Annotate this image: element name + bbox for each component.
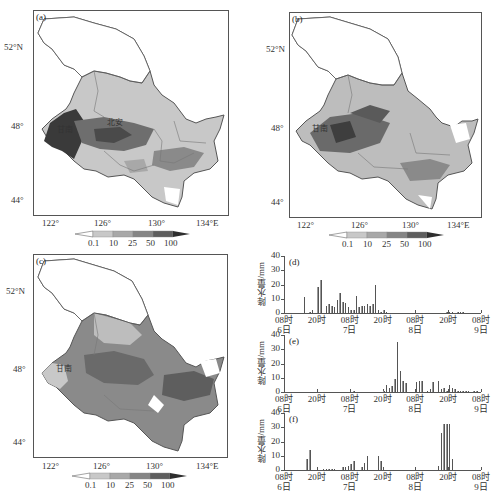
y-tick — [281, 470, 284, 471]
x-tick — [350, 389, 351, 392]
x-tick — [284, 310, 285, 313]
data-bar — [462, 391, 464, 392]
lat-tick: 52°N — [4, 42, 23, 52]
colorbar-label: 10 — [106, 480, 115, 490]
x-tick — [317, 389, 318, 392]
x-tick-date: 9日 — [469, 482, 493, 492]
panel-label: (f) — [289, 414, 298, 424]
panel-label: (c) — [36, 256, 46, 266]
x-tick-label: 08时 — [272, 394, 296, 404]
x-tick-label: 08时 — [469, 394, 493, 404]
data-bar — [452, 459, 454, 470]
place-label-beian: 北安 — [107, 116, 123, 127]
x-tick — [284, 467, 285, 470]
x-tick-label: 08时 — [272, 315, 296, 325]
data-bar — [391, 386, 393, 392]
panel-label: (a) — [36, 12, 46, 22]
data-bar — [304, 297, 306, 313]
data-bar — [402, 381, 404, 392]
x-tick — [383, 467, 384, 470]
data-bar — [432, 382, 434, 392]
data-bar — [421, 381, 423, 392]
x-tick-date: 6日 — [272, 482, 296, 492]
lat-tick: 48° — [13, 364, 26, 374]
x-tick — [481, 310, 482, 313]
data-bar — [348, 307, 350, 313]
x-tick-date: 7日 — [338, 482, 362, 492]
lon-tick: 134°E — [196, 218, 219, 228]
x-tick-label: 08时 — [403, 472, 427, 482]
y-axis — [284, 256, 285, 313]
data-bar — [473, 391, 475, 392]
data-bar — [375, 285, 377, 314]
y-tick-label: 30 — [270, 421, 280, 431]
x-tick-label: 20时 — [305, 315, 329, 325]
data-bar — [369, 306, 371, 313]
lon-tick: 122° — [42, 461, 59, 471]
data-bar — [326, 469, 328, 470]
data-bar — [345, 467, 347, 470]
data-bar — [342, 302, 344, 313]
data-bar — [309, 450, 311, 470]
y-tick-label: 20 — [270, 436, 280, 446]
lon-tick: 134°E — [447, 220, 470, 230]
lon-tick: 126° — [93, 461, 110, 471]
data-bar — [380, 461, 382, 470]
y-tick-label: 40 — [270, 407, 280, 417]
data-bar — [400, 371, 402, 392]
map-panel-a: (a) 甘南 北安 52°N 48° 44° 122° 126° 130° 13… — [0, 0, 250, 250]
data-bar — [446, 391, 448, 392]
data-bar — [326, 306, 328, 313]
y-tick-label: 10 — [270, 372, 280, 382]
data-bar — [364, 463, 366, 470]
data-bar — [331, 469, 333, 470]
data-bar — [449, 385, 451, 392]
data-bar — [350, 464, 352, 470]
data-bar — [427, 391, 429, 392]
y-tick — [281, 349, 284, 350]
colorbar-label: 0.1 — [342, 239, 353, 249]
map-frame: (c) 甘南 — [33, 254, 228, 458]
x-axis — [284, 392, 481, 393]
y-axis — [284, 413, 285, 470]
y-axis-label: 降水量/mm — [254, 262, 267, 306]
lon-tick: 122° — [42, 218, 59, 228]
data-bar — [389, 388, 391, 392]
lat-tick: 44° — [13, 437, 26, 447]
x-tick-label: 20时 — [436, 315, 460, 325]
data-bar — [345, 303, 347, 313]
x-tick-label: 08时 — [338, 472, 362, 482]
data-bar — [339, 293, 341, 313]
y-tick — [281, 285, 284, 286]
panel-label: (b) — [292, 14, 303, 24]
y-tick-label: 40 — [270, 250, 280, 260]
colorbar-label: 100 — [418, 239, 432, 249]
x-tick-label: 08时 — [338, 394, 362, 404]
x-tick-label: 20时 — [305, 394, 329, 404]
x-tick — [415, 310, 416, 313]
data-bar — [441, 389, 443, 392]
data-bar — [454, 389, 456, 392]
x-tick-label: 20时 — [436, 394, 460, 404]
y-tick-label: 30 — [270, 264, 280, 274]
data-bar — [342, 467, 344, 470]
data-bar — [348, 466, 350, 470]
colorbar-label: 10 — [109, 238, 118, 248]
data-bar — [350, 310, 352, 313]
data-bar — [430, 389, 432, 392]
data-bar — [462, 312, 464, 313]
data-bar — [364, 306, 366, 313]
precipitation-map — [34, 11, 230, 217]
x-tick-label: 08时 — [338, 315, 362, 325]
data-bar — [386, 385, 388, 392]
y-tick — [281, 313, 284, 314]
data-bar — [465, 391, 467, 392]
colorbar — [72, 472, 187, 480]
y-tick — [281, 299, 284, 300]
lon-tick: 130° — [146, 461, 163, 471]
data-bar — [449, 312, 451, 313]
data-bar — [438, 381, 440, 392]
data-bar — [331, 306, 333, 313]
colorbar-label: 100 — [164, 238, 178, 248]
colorbar-label: 25 — [125, 480, 134, 490]
